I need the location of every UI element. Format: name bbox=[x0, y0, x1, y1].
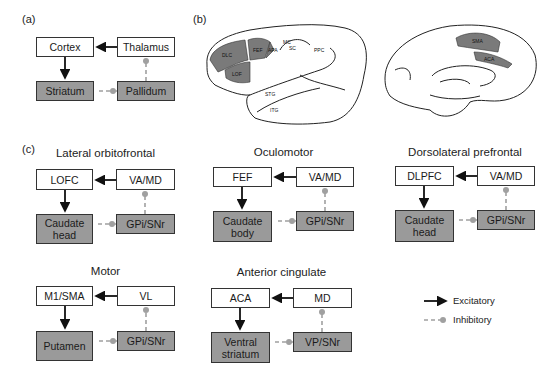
svg-text:FEF: FEF bbox=[253, 47, 262, 53]
pallidum-box: GPi/SNr bbox=[117, 331, 175, 351]
circuit-title: Oculomotor bbox=[213, 146, 354, 158]
striatum-box: Striatum bbox=[36, 81, 94, 101]
pallidum-box: Pallidum bbox=[117, 81, 175, 101]
pallidum-box: GPi/SNr bbox=[116, 214, 175, 234]
thalamus-box: MD bbox=[293, 288, 352, 308]
thalamus-box: VA/MD bbox=[296, 167, 354, 187]
striatum-box: Ventral striatum bbox=[211, 332, 270, 363]
cortex-box: LOFC bbox=[36, 169, 93, 190]
circuit-title: Anterior cingulate bbox=[211, 266, 352, 278]
svg-text:ACA: ACA bbox=[484, 56, 495, 62]
brain-medial-regions bbox=[456, 33, 512, 68]
striatum-box: Caudate head bbox=[395, 210, 454, 242]
svg-text:APA: APA bbox=[268, 47, 278, 53]
cortex-box: M1/SMA bbox=[36, 286, 93, 306]
svg-text:DLC: DLC bbox=[222, 52, 232, 58]
striatum-box: Putamen bbox=[36, 331, 93, 361]
thalamus-box: VA/MD bbox=[116, 169, 175, 190]
pallidum-box: GPi/SNr bbox=[477, 210, 535, 230]
svg-text:LOF: LOF bbox=[232, 71, 242, 77]
pallidum-box: GPi/SNr bbox=[296, 211, 354, 231]
circuit-title: Lateral orbitofrontal bbox=[36, 147, 175, 159]
svg-text:SC: SC bbox=[289, 45, 296, 51]
cortex-box: FEF bbox=[213, 167, 272, 187]
thalamus-box: VL bbox=[117, 286, 175, 306]
striatum-box: Caudate body bbox=[213, 211, 272, 242]
cortex-box: Cortex bbox=[36, 37, 94, 57]
striatum-box: Caudate head bbox=[36, 214, 93, 244]
circuit-title: Dorsolateral prefrontal bbox=[385, 146, 545, 158]
cortex-box: ACA bbox=[211, 288, 270, 308]
svg-text:PPC: PPC bbox=[314, 47, 325, 53]
cortex-box: DLPFC bbox=[395, 166, 454, 186]
thalamus-box: VA/MD bbox=[477, 166, 535, 186]
legend-inhibitory: Inhibitory bbox=[453, 314, 492, 325]
thalamus-box: Thalamus bbox=[117, 37, 175, 57]
circuit-title: Motor bbox=[36, 265, 175, 277]
brain-lateral-regions bbox=[210, 38, 274, 83]
pallidum-box: VP/SNr bbox=[293, 332, 352, 352]
svg-text:ITG: ITG bbox=[270, 107, 278, 113]
svg-text:SMA: SMA bbox=[472, 38, 484, 44]
svg-text:STG: STG bbox=[265, 91, 275, 97]
legend-excitatory: Excitatory bbox=[453, 295, 495, 306]
